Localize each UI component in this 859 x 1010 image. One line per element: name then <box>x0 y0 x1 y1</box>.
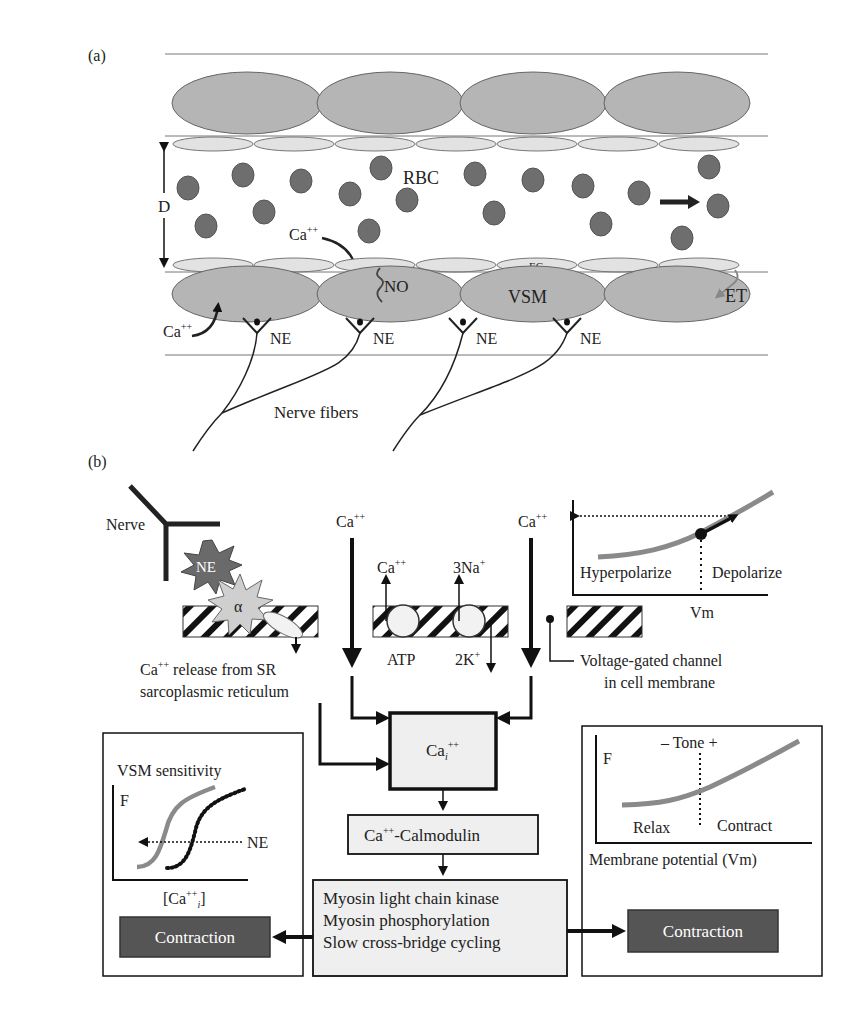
nerve-fibers <box>193 333 567 451</box>
myosin-line-3: Slow cross-bridge cycling <box>323 933 501 952</box>
top-endothelial-cells <box>173 137 739 151</box>
k-label: 2K+ <box>455 649 481 668</box>
atp-label: ATP <box>387 651 416 668</box>
ca-label-left: Ca++ <box>336 511 365 530</box>
sr-release-text-1: Ca++ release from SR <box>140 659 276 678</box>
red-blood-cells <box>177 155 729 250</box>
tone-x-label: Membrane potential (Vm) <box>589 851 757 869</box>
sensitivity-title: VSM sensitivity <box>117 762 221 780</box>
contract-label: Contract <box>717 817 773 834</box>
sensitivity-ne-label: NE <box>247 834 268 851</box>
no-label: NO <box>384 277 409 296</box>
nerve-label: Nerve <box>106 516 145 533</box>
depolarize-label: Depolarize <box>712 564 782 582</box>
pump-ca-label: Ca++ <box>377 557 406 576</box>
ca-label-right: Ca++ <box>518 511 547 530</box>
vm-graph: Hyperpolarize Depolarize Vm <box>573 492 782 621</box>
ca-label-lumen: Ca++ <box>289 224 318 243</box>
panel-b-label: (b) <box>88 453 107 471</box>
vm-curve <box>598 492 773 557</box>
contraction-label-left: Contraction <box>155 928 236 947</box>
panel-b: (b) Nerve NE α Ca++ release from SR sarc… <box>88 453 822 976</box>
ne-label-3: NE <box>476 330 497 347</box>
sensitivity-y-label: F <box>120 792 129 809</box>
sr-release-text-2: sarcoplasmic reticulum <box>140 683 289 701</box>
panel-a-label: (a) <box>88 47 106 65</box>
rbc-label: RBC <box>403 168 439 188</box>
ne-label-1: NE <box>270 330 291 347</box>
bottom-smooth-muscle-cells <box>172 266 750 322</box>
ca-label-vsm: Ca++ <box>163 321 192 340</box>
myosin-line-1: Myosin light chain kinase <box>323 889 499 908</box>
sensitivity-curve-dotted <box>167 789 245 868</box>
ne-star-label: NE <box>196 559 216 575</box>
ca-pump-icon <box>387 605 419 637</box>
top-smooth-muscle-cells <box>172 72 750 134</box>
relax-label: Relax <box>633 819 670 836</box>
na-k-pump-icon <box>453 605 485 637</box>
voltage-channel-text-1: Voltage-gated channel <box>580 652 723 670</box>
et-label: ET <box>725 286 747 306</box>
vm-axis-label: Vm <box>690 604 715 621</box>
ne-label-4: NE <box>580 330 601 347</box>
myosin-line-2: Myosin phosphorylation <box>323 911 490 930</box>
tone-title: – Tone + <box>660 734 718 751</box>
panel-a: (a) D <box>88 47 768 451</box>
pump-na-label: 3Na+ <box>453 557 486 576</box>
ne-label-2: NE <box>373 330 394 347</box>
nerve-fibers-label: Nerve fibers <box>274 403 359 422</box>
calmodulin-label: Ca++-Calmodulin <box>364 825 481 845</box>
vascular-diagram: (a) D <box>0 0 859 1010</box>
alpha-label: α <box>234 598 243 615</box>
hyperpolarize-label: Hyperpolarize <box>580 564 672 582</box>
sensitivity-x-label: [Ca++i] <box>163 888 206 910</box>
voltage-channel-text-2: in cell membrane <box>604 674 715 691</box>
contraction-label-right: Contraction <box>663 922 744 941</box>
sensitivity-curve-gray <box>137 787 215 867</box>
vsm-label: VSM <box>508 287 547 307</box>
diameter-label: D <box>158 197 170 216</box>
cell-membrane-right <box>567 606 642 637</box>
tone-y-label: F <box>603 750 612 767</box>
